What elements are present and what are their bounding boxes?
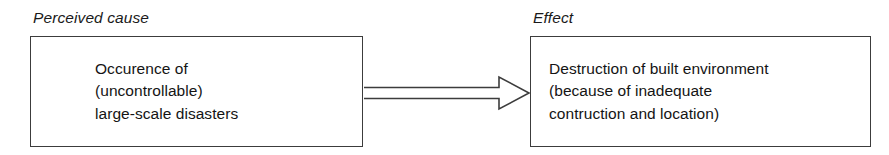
cause-to-effect-arrow-icon	[362, 72, 532, 114]
cause-node-text: Occurence of (uncontrollable) large-scal…	[95, 58, 238, 126]
cause-node-box: Occurence of (uncontrollable) large-scal…	[30, 36, 363, 147]
cause-caption-label: Perceived cause	[33, 9, 149, 27]
effect-caption-label: Effect	[533, 9, 573, 27]
diagram-canvas: Perceived cause Occurence of (uncontroll…	[0, 0, 889, 155]
effect-node-text: Destruction of built environment (becaus…	[549, 58, 769, 126]
effect-node-box: Destruction of built environment (becaus…	[530, 36, 871, 147]
